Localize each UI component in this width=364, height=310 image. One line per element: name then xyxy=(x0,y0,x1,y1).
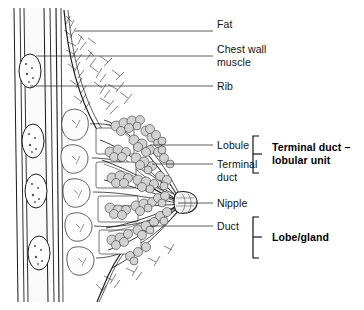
label-fat: Fat xyxy=(217,18,232,31)
label-terminal-duct: Terminal duct xyxy=(217,158,257,183)
rib-cross-section xyxy=(22,124,44,158)
label-duct: Duct xyxy=(217,220,239,233)
label-rib: Rib xyxy=(217,80,233,93)
group-label-terminal-duct-lobular-unit: Terminal duct – lobular unit xyxy=(272,141,350,167)
group-label-lobe-gland: Lobe/gland xyxy=(272,231,329,244)
rib-cross-section xyxy=(28,236,50,270)
label-lobule: Lobule xyxy=(217,139,249,152)
label-nipple: Nipple xyxy=(217,197,247,210)
label-chest-wall-muscle: Chest wall muscle xyxy=(217,43,266,68)
group-brackets xyxy=(253,136,262,258)
breast-anatomy-diagram: Fat Chest wall muscle Rib Lobule Termina… xyxy=(0,0,364,310)
nipple xyxy=(174,191,197,213)
rib-cross-section xyxy=(25,174,47,208)
rib-cross-section xyxy=(19,54,41,88)
